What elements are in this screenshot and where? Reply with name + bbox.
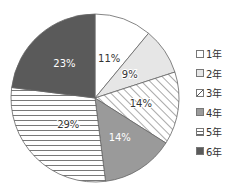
chart-legend: 1年 2年 3年 4年 5年 6年 bbox=[196, 44, 222, 161]
legend-label-1: 1年 bbox=[206, 46, 222, 61]
slice-label-5: 29% bbox=[57, 119, 79, 130]
legend-swatch-5 bbox=[196, 128, 204, 136]
slice-label-3: 14% bbox=[130, 98, 152, 109]
legend-label-3: 3年 bbox=[206, 85, 222, 100]
legend-item-4: 4年 bbox=[196, 103, 222, 123]
slice-label-4: 14% bbox=[109, 132, 131, 143]
pie-chart: 11%9%14%14%29%23% bbox=[0, 0, 190, 190]
legend-label-2: 2年 bbox=[206, 66, 222, 81]
legend-label-6: 6年 bbox=[206, 144, 222, 159]
legend-swatch-2 bbox=[196, 69, 204, 77]
legend-label-4: 4年 bbox=[206, 105, 222, 120]
pie-slice-6 bbox=[12, 14, 95, 98]
slice-label-6: 23% bbox=[53, 58, 75, 69]
legend-label-5: 5年 bbox=[206, 124, 222, 139]
legend-item-1: 1年 bbox=[196, 44, 222, 64]
legend-item-6: 6年 bbox=[196, 142, 222, 162]
legend-swatch-1 bbox=[196, 50, 204, 58]
pie-slice-5 bbox=[11, 87, 106, 182]
slice-label-1: 11% bbox=[98, 53, 120, 64]
legend-item-5: 5年 bbox=[196, 122, 222, 142]
legend-swatch-4 bbox=[196, 108, 204, 116]
legend-item-2: 2年 bbox=[196, 64, 222, 84]
slice-label-2: 9% bbox=[122, 69, 138, 80]
legend-item-3: 3年 bbox=[196, 83, 222, 103]
legend-swatch-6 bbox=[196, 147, 204, 155]
legend-swatch-3 bbox=[196, 89, 204, 97]
